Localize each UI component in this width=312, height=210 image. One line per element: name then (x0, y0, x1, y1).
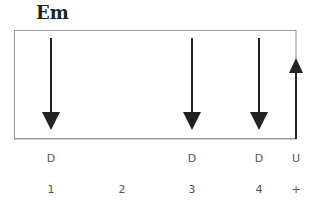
beat-label: 4 (249, 183, 269, 196)
down-arrow-icon (183, 38, 201, 130)
beat-label: 2 (112, 183, 132, 196)
up-arrow-icon (289, 58, 303, 139)
beat-label: 1 (41, 183, 61, 196)
down-arrow-icon (250, 38, 268, 130)
stroke-label: D (249, 152, 269, 165)
stroke-label: D (41, 152, 61, 165)
down-arrow-icon (42, 38, 60, 130)
stroke-label: D (182, 152, 202, 165)
beat-label: + (286, 183, 306, 196)
strum-arrows (0, 0, 312, 210)
beat-label: 3 (182, 183, 202, 196)
stroke-label: U (286, 152, 306, 165)
